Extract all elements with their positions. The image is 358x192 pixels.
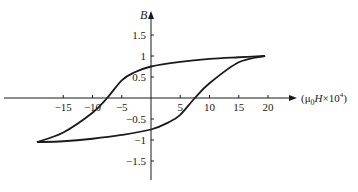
y-axis-label: B	[140, 8, 148, 22]
x-tick-label: 15	[233, 101, 245, 113]
x-tick-label: −15	[55, 101, 73, 113]
y-tick-label: −1.5	[126, 155, 146, 167]
hysteresis-chart: −15−10−55101520 1.510.5−0.5−1−1.5 B (μ0H…	[0, 0, 358, 192]
x-axis-label: (μ0H×104)	[301, 91, 347, 107]
x-axis-arrow-icon	[289, 95, 297, 101]
y-axis-arrow-icon	[148, 11, 154, 19]
x-tick-label: 10	[204, 101, 216, 113]
y-tick-label: −0.5	[126, 113, 146, 125]
y-tick-label: −1	[134, 134, 146, 146]
x-tick-label: 20	[263, 101, 275, 113]
y-tick-label: 1.5	[132, 29, 146, 41]
x-tick-label: −5	[116, 101, 128, 113]
y-tick-label: 1	[141, 50, 147, 62]
